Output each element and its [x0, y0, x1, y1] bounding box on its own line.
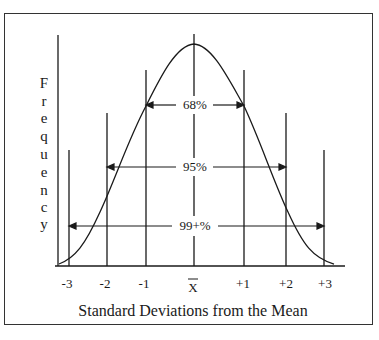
tick-minus-1: -1 [139, 276, 150, 291]
label-68: 68% [183, 97, 207, 112]
tick-mean: X [188, 280, 198, 295]
svg-text:n: n [40, 182, 48, 198]
svg-text:q: q [40, 128, 48, 144]
tick-plus-3: +3 [318, 276, 332, 291]
tick-plus-2: +2 [279, 276, 293, 291]
tick-minus-2: -2 [100, 276, 111, 291]
svg-text:c: c [41, 199, 48, 215]
svg-text:F: F [40, 75, 48, 91]
y-axis-label: F r e q u e n c y [40, 75, 48, 232]
tick-plus-1: +1 [236, 276, 250, 291]
arrow-left-icon [69, 223, 76, 229]
normal-distribution-diagram: 68% 95% 99+% F r e q u e n c y -3 -2 -1 … [0, 0, 379, 340]
label-99: 99+% [179, 218, 210, 233]
svg-text:e: e [41, 164, 48, 180]
arrow-right-icon [279, 164, 286, 170]
label-95: 95% [183, 159, 207, 174]
svg-text:y: y [40, 216, 48, 232]
x-tick-labels: -3 -2 -1 X +1 +2 +3 [62, 276, 332, 295]
arrow-left-icon [107, 164, 114, 170]
arrow-right-icon [317, 223, 324, 229]
svg-text:e: e [41, 110, 48, 126]
x-axis-title: Standard Deviations from the Mean [78, 302, 307, 319]
svg-text:u: u [40, 146, 48, 162]
tick-minus-3: -3 [62, 276, 73, 291]
svg-text:r: r [42, 93, 47, 109]
